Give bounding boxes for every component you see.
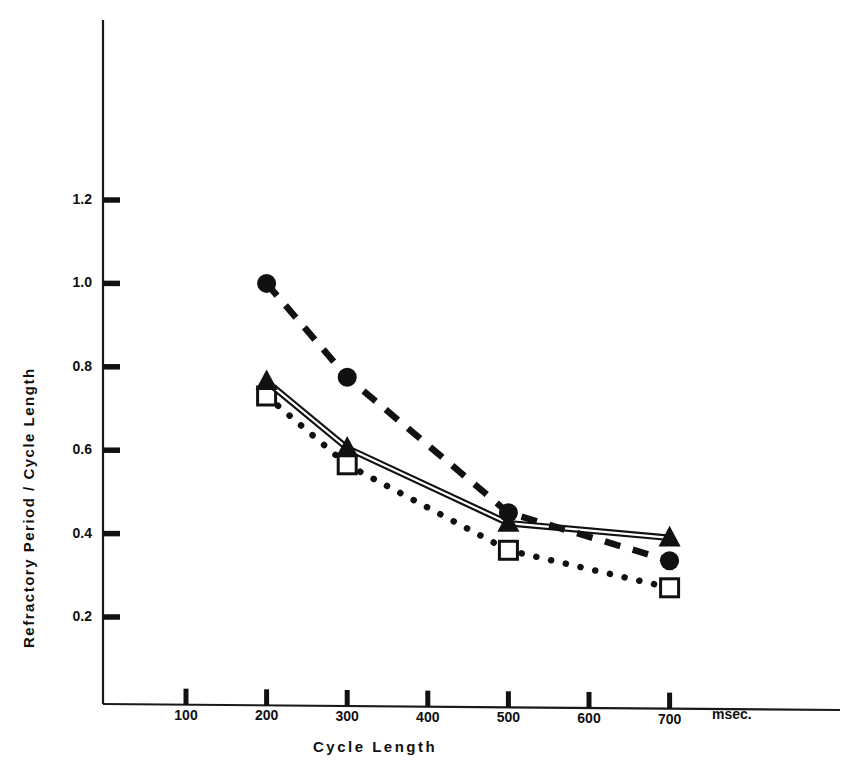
marker-filled-circle	[257, 274, 276, 293]
plot-canvas	[0, 0, 849, 784]
y-tick-label: 1.0	[46, 274, 92, 290]
marker-filled-circle	[338, 368, 357, 387]
marker-filled-circle	[499, 503, 518, 522]
marker-open-square	[661, 579, 679, 597]
x-tick-label: 700	[647, 711, 693, 727]
marker-open-square	[338, 456, 356, 474]
x-axis-title: Cycle Length	[313, 738, 437, 755]
series-line-filled-triangle-series-outer	[267, 381, 670, 537]
marker-filled-triangle	[256, 369, 278, 390]
series-line-open-square-series	[267, 396, 670, 588]
x-tick-label: 600	[566, 710, 612, 726]
y-axis-title: Refractory Period / Cycle Length	[20, 367, 37, 648]
x-tick-label: 400	[405, 709, 451, 725]
marker-filled-circle	[660, 551, 679, 570]
series-line-filled-triangle-series-inner	[267, 381, 670, 537]
chart-figure: Refractory Period / Cycle Length Cycle L…	[0, 0, 849, 784]
x-tick-label: 200	[244, 707, 290, 723]
x-tick-label: 500	[485, 709, 531, 725]
y-tick-label: 0.4	[46, 525, 92, 541]
series-line-filled-circle-series	[267, 283, 670, 560]
x-tick-label: 100	[163, 707, 209, 723]
y-tick-label: 1.2	[46, 191, 92, 207]
y-tick-label: 0.8	[46, 358, 92, 374]
y-tick-label: 0.2	[46, 608, 92, 624]
y-tick-label: 0.6	[46, 441, 92, 457]
x-tick-label: 300	[324, 708, 370, 724]
x-axis-unit-label: msec.	[712, 706, 752, 722]
marker-open-square	[499, 541, 517, 559]
